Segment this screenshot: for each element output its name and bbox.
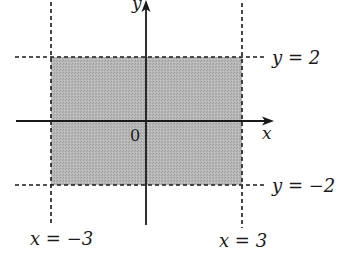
y-axis-label: y (131, 0, 142, 13)
label-y-equals-2: y = 2 (271, 47, 320, 68)
label-x-equals-minus-3: x = −3 (30, 228, 93, 249)
label-y-equals-minus-2: y = −2 (271, 175, 335, 196)
region-diagram: y x 0 y = 2 y = −2 x = −3 x = 3 (0, 0, 343, 256)
x-axis-label: x (262, 123, 272, 143)
label-x-equals-3: x = 3 (219, 230, 267, 251)
origin-label: 0 (130, 126, 140, 145)
